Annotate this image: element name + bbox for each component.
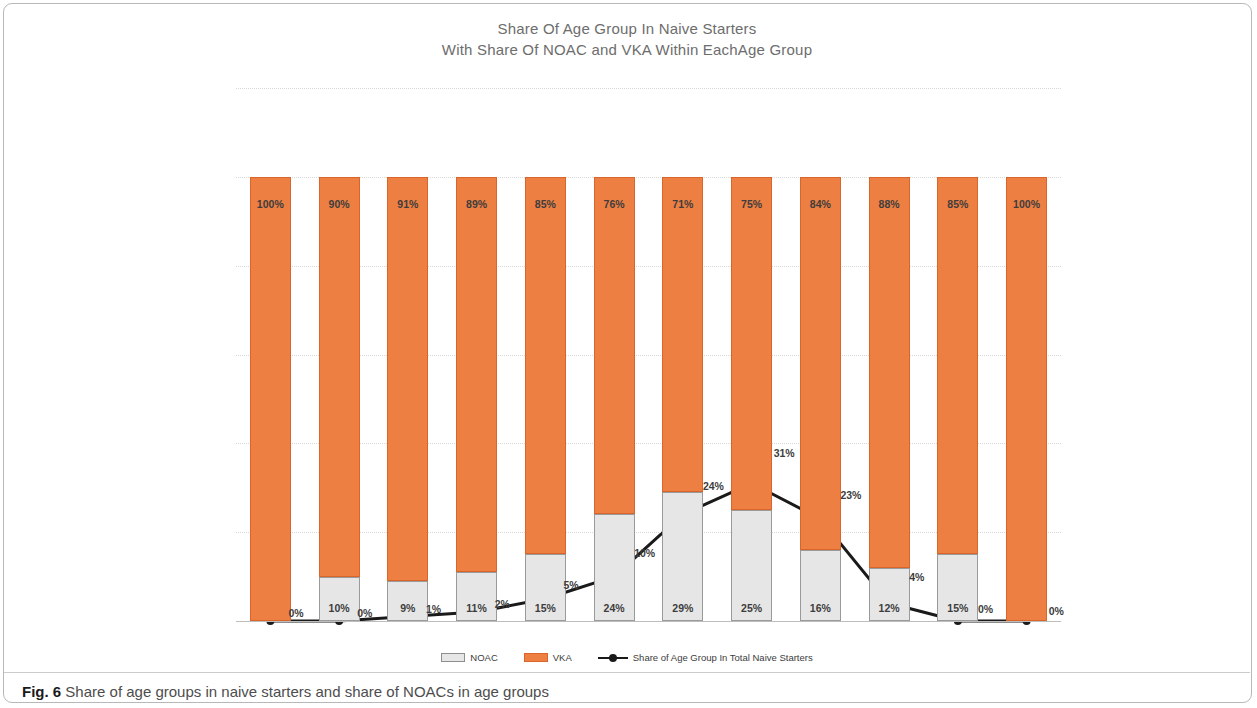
bar-segment-noac[interactable]: 15%	[937, 554, 978, 621]
bar-label-noac: 24%	[595, 602, 634, 614]
figure-caption-text: Share of age groups in naive starters an…	[65, 683, 549, 700]
bar-label-noac: 9%	[388, 602, 427, 614]
chart-title: Share Of Age Group In Naive Starters Wit…	[4, 18, 1250, 60]
line-data-label: 0%	[357, 607, 372, 619]
legend-item-share-line[interactable]: Share of Age Group In Total Naive Starte…	[598, 652, 813, 663]
bar-group[interactable]: 75%25%	[731, 177, 772, 621]
bar-segment-noac[interactable]: 29%	[662, 492, 703, 621]
bar-label-vka: 100%	[251, 198, 290, 210]
figure-frame: Share Of Age Group In Naive Starters Wit…	[3, 3, 1252, 703]
bar-segment-noac[interactable]: 25%	[731, 510, 772, 621]
bar-segment-vka[interactable]: 85%	[525, 177, 566, 555]
bar-segment-vka[interactable]: 91%	[387, 177, 428, 581]
line-data-label: 23%	[840, 489, 861, 501]
bar-segment-vka[interactable]: 88%	[869, 177, 910, 568]
line-data-label: 0%	[288, 607, 303, 619]
bar-label-vka: 84%	[801, 198, 840, 210]
bar-label-noac: 16%	[801, 602, 840, 614]
line-data-label: 24%	[703, 480, 724, 492]
bar-segment-vka[interactable]: 90%	[319, 177, 360, 577]
legend-label-share-line: Share of Age Group In Total Naive Starte…	[633, 652, 813, 663]
bar-segment-vka[interactable]: 89%	[456, 177, 497, 572]
plot-area: 0%20%40%60%80%100%120%100%0-990%10%10-19…	[236, 88, 1061, 621]
bar-segment-noac[interactable]: 15%	[525, 554, 566, 621]
bar-label-noac: 29%	[663, 602, 702, 614]
bar-segment-vka[interactable]: 71%	[662, 177, 703, 492]
line-data-label: 10%	[634, 547, 655, 559]
bar-group[interactable]: 85%15%	[525, 177, 566, 621]
bar-group[interactable]: 100%	[250, 177, 291, 621]
vka-swatch-icon	[524, 653, 548, 662]
bar-segment-vka[interactable]: 85%	[937, 177, 978, 555]
bar-segment-noac[interactable]: 24%	[594, 514, 635, 621]
x-axis-baseline	[236, 621, 1061, 622]
bar-label-noac: 11%	[457, 602, 496, 614]
line-data-label: 0%	[1049, 605, 1064, 617]
figure-caption: Fig. 6 Share of age groups in naive star…	[22, 682, 1232, 702]
bar-label-vka: 75%	[732, 198, 771, 210]
bar-label-noac: 10%	[320, 602, 359, 614]
figure-number: Fig. 6	[22, 683, 61, 700]
line-data-label: 2%	[495, 598, 510, 610]
gridline	[236, 88, 1061, 89]
bar-label-noac: 15%	[938, 602, 977, 614]
legend-item-noac[interactable]: NOAC	[441, 652, 497, 663]
bar-group[interactable]: 100%	[1006, 177, 1047, 621]
bar-group[interactable]: 89%11%	[456, 177, 497, 621]
bar-group[interactable]: 88%12%	[869, 177, 910, 621]
noac-swatch-icon	[441, 653, 465, 662]
bar-group[interactable]: 90%10%	[319, 177, 360, 621]
line-data-label: 0%	[978, 603, 993, 615]
bar-label-vka: 90%	[320, 198, 359, 210]
bar-label-vka: 76%	[595, 198, 634, 210]
bar-segment-vka[interactable]: 75%	[731, 177, 772, 510]
bar-label-vka: 88%	[870, 198, 909, 210]
line-data-label: 1%	[426, 603, 441, 615]
bar-label-vka: 100%	[1007, 198, 1046, 210]
legend-item-vka[interactable]: VKA	[524, 652, 572, 663]
bar-label-vka: 85%	[526, 198, 565, 210]
bar-label-vka: 89%	[457, 198, 496, 210]
bar-segment-vka[interactable]: 76%	[594, 177, 635, 515]
bar-group[interactable]: 76%24%	[594, 177, 635, 621]
bar-segment-vka[interactable]: 100%	[1006, 177, 1047, 621]
bar-segment-noac[interactable]: 12%	[869, 568, 910, 621]
bar-segment-vka[interactable]: 100%	[250, 177, 291, 621]
chart-legend: NOAC VKA Share of Age Group In Total Nai…	[4, 652, 1250, 663]
caption-divider	[4, 672, 1250, 673]
line-data-label: 31%	[774, 447, 795, 459]
bar-group[interactable]: 85%15%	[937, 177, 978, 621]
bar-segment-noac[interactable]: 10%	[319, 577, 360, 621]
bar-group[interactable]: 84%16%	[800, 177, 841, 621]
bar-segment-vka[interactable]: 84%	[800, 177, 841, 550]
legend-label-noac: NOAC	[470, 652, 497, 663]
bar-label-noac: 15%	[526, 602, 565, 614]
bar-label-vka: 85%	[938, 198, 977, 210]
legend-label-vka: VKA	[553, 652, 572, 663]
bar-segment-noac[interactable]: 11%	[456, 572, 497, 621]
chart-panel: Share Of Age Group In Naive Starters Wit…	[4, 4, 1250, 672]
bar-label-noac: 12%	[870, 602, 909, 614]
line-marker-icon	[598, 653, 628, 662]
bar-group[interactable]: 91%9%	[387, 177, 428, 621]
line-data-label: 5%	[563, 579, 578, 591]
line-data-label: 4%	[909, 571, 924, 583]
bar-segment-noac[interactable]: 16%	[800, 550, 841, 621]
bar-label-vka: 91%	[388, 198, 427, 210]
chart-title-line-2: With Share Of NOAC and VKA Within EachAg…	[4, 39, 1250, 60]
bar-label-noac: 25%	[732, 602, 771, 614]
bar-segment-noac[interactable]: 9%	[387, 581, 428, 621]
chart-title-line-1: Share Of Age Group In Naive Starters	[4, 18, 1250, 39]
bar-label-vka: 71%	[663, 198, 702, 210]
bar-group[interactable]: 71%29%	[662, 177, 703, 621]
